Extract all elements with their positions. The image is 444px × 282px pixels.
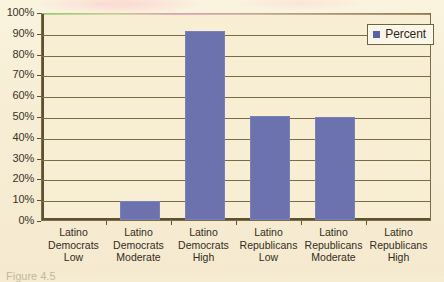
x-axis-category-label-5: LatinoRepublicansModerate [301,226,366,264]
category-label-line: Democrats [106,239,171,252]
gridline [42,118,430,119]
x-axis-category-label-1: LatinoDemocratsLow [41,226,106,264]
scan-color-fringe [42,13,430,15]
y-axis-tick-label: 50% [0,110,34,122]
chart-legend: Percent [367,24,434,45]
category-label-line: Low [41,251,106,264]
bar-3 [185,31,225,220]
x-axis-category-label-4: LatinoRepublicansLow [236,226,301,264]
y-axis-tick [37,221,41,222]
category-label-line: Latino [301,226,366,239]
bar-5 [315,117,355,220]
y-axis-tick-label: 60% [0,89,34,101]
y-axis-tick [37,13,41,14]
gridline [42,76,430,77]
y-axis-tick-label: 70% [0,68,34,80]
gridline [42,160,430,161]
category-label-line: Latino [171,226,236,239]
category-label-line: Democrats [171,239,236,252]
x-axis-tick [106,221,107,225]
category-label-line: Republicans [366,239,431,252]
category-label-line: Democrats [41,239,106,252]
legend-swatch-percent [373,31,380,38]
y-axis-line [42,14,44,220]
y-axis-tick-label: 100% [0,6,34,18]
gridline [42,97,430,98]
category-label-line: High [366,251,431,264]
x-axis-tick [236,221,237,225]
category-label-line: Republicans [301,239,366,252]
y-axis-tick [37,34,41,35]
gridline [42,201,430,202]
y-axis-tick [37,179,41,180]
category-label-line: Low [236,251,301,264]
x-axis-line [42,218,430,220]
y-axis-tick-label: 20% [0,172,34,184]
y-axis-tick [37,200,41,201]
y-axis-tick-label: 80% [0,48,34,60]
y-axis-tick [37,117,41,118]
legend-label-percent: Percent [385,27,426,41]
y-axis-tick-label: 0% [0,214,34,226]
x-axis-category-label-3: LatinoDemocratsHigh [171,226,236,264]
y-axis-tick [37,138,41,139]
x-axis-tick [366,221,367,225]
category-label-line: Moderate [106,251,171,264]
category-label-line: Moderate [301,251,366,264]
y-axis-tick-label: 30% [0,152,34,164]
category-label-line: Latino [236,226,301,239]
y-axis-tick [37,96,41,97]
gridline [42,56,430,57]
y-axis-tick [37,159,41,160]
y-axis-tick [37,75,41,76]
category-label-line: High [171,251,236,264]
gridline [42,180,430,181]
bar-2 [120,201,160,220]
figure-caption: Figure 4.5 [6,270,56,282]
x-axis-tick [171,221,172,225]
category-label-line: Latino [106,226,171,239]
x-axis-category-label-2: LatinoDemocratsModerate [106,226,171,264]
category-label-line: Latino [41,226,106,239]
y-axis-tick-label: 90% [0,27,34,39]
x-axis-category-label-6: LatinoRepublicansHigh [366,226,431,264]
y-axis-tick-label: 10% [0,193,34,205]
x-axis-tick [301,221,302,225]
y-axis-tick [37,55,41,56]
category-label-line: Latino [366,226,431,239]
y-axis-tick-label: 40% [0,131,34,143]
bar-4 [250,116,290,220]
category-label-line: Republicans [236,239,301,252]
gridline [42,139,430,140]
